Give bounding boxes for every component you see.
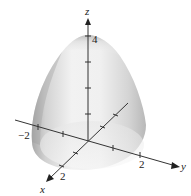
x-tick-label-2: 2 — [60, 170, 66, 182]
x-axis-label: x — [39, 183, 45, 195]
y-arrow-icon — [171, 162, 180, 169]
y-tick-label-2: 2 — [139, 158, 145, 170]
z-tick-label-4: 4 — [92, 33, 98, 45]
y-tick-label-neg2: −2 — [18, 129, 30, 141]
z-axis-label: z — [84, 5, 90, 17]
paraboloid-surface — [32, 35, 146, 170]
z-arrow-icon — [85, 18, 91, 25]
y-axis-label: y — [180, 160, 186, 172]
paraboloid-figure: z 4 −2 2 y 2 x — [0, 0, 191, 196]
